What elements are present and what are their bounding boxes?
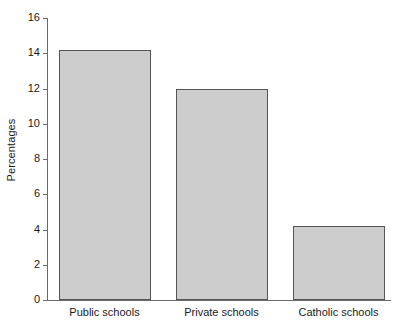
- y-axis-tick-label: 0: [34, 293, 40, 306]
- bar-chart-figure: Percentages 0246810121416 Public schools…: [0, 0, 401, 332]
- y-axis-tick-label: 16: [28, 11, 40, 24]
- x-axis-labels: Public schoolsPrivate schoolsCatholic sc…: [48, 305, 391, 325]
- bar-group: [293, 18, 385, 300]
- y-axis-tick-label: 2: [34, 258, 40, 271]
- y-axis-tick-label: 6: [34, 187, 40, 200]
- y-axis-tick-label: 4: [34, 223, 40, 236]
- bar: [176, 89, 268, 301]
- x-axis-category-label: Catholic schools: [281, 305, 395, 320]
- x-axis-category-label: Public schools: [47, 305, 161, 320]
- y-axis-tick-label: 10: [28, 117, 40, 130]
- y-axis-tick-label: 8: [34, 152, 40, 165]
- bar: [293, 226, 385, 300]
- bar-group: [176, 18, 268, 300]
- y-axis-tick-label: 12: [28, 82, 40, 95]
- x-axis-line: [47, 300, 391, 301]
- plot-area: [48, 18, 391, 300]
- y-axis-tick-label: 14: [28, 46, 40, 59]
- x-axis-category-label: Private schools: [164, 305, 278, 320]
- y-axis: 0246810121416: [0, 0, 48, 332]
- bar: [59, 50, 151, 300]
- bar-group: [59, 18, 151, 300]
